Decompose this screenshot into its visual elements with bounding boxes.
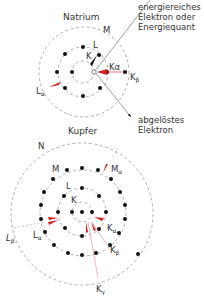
kupfer-shell-n-label: N <box>38 141 44 151</box>
incoming-label: energiereiches Elektron oder Energiequan… <box>138 2 201 32</box>
kupfer-ka-label: Kα <box>107 223 117 236</box>
natrium-shell-m-label: M <box>103 25 110 35</box>
kupfer-lb-label: Lβ <box>6 233 15 246</box>
kupfer-kg-arrow <box>86 222 88 233</box>
natrium-kb-label: Kβ <box>130 72 139 85</box>
natrium-vacancy <box>92 70 96 74</box>
kupfer-kg-line <box>88 222 98 278</box>
kupfer-la-arrow-1 <box>48 217 58 220</box>
natrium-title: Natrium <box>63 12 99 22</box>
ejected-electron-line <box>95 72 131 117</box>
natrium-shell-k-label: K <box>86 51 92 61</box>
kupfer-title: Kupfer <box>68 126 97 136</box>
diagram-canvas <box>0 0 204 304</box>
kupfer-kb-label: Kβ <box>110 245 119 258</box>
natrium-la-arrow <box>49 82 60 87</box>
natrium-ka-arrow <box>97 69 107 75</box>
kupfer-la-arrow-2 <box>48 220 58 225</box>
kupfer-electrons <box>39 166 140 257</box>
kupfer-ma-arrow <box>103 164 108 173</box>
kupfer-ka-arrow <box>94 217 104 221</box>
kupfer-shell-m-label: M <box>52 164 59 174</box>
natrium-ka-label: Kα <box>109 62 120 72</box>
kupfer-la-label: Lα <box>33 230 42 243</box>
kupfer-shell-k-label: K <box>71 195 77 205</box>
kupfer-lb-line <box>14 222 44 228</box>
natrium-shell-l-label: L <box>93 40 98 50</box>
kupfer-kg-label: Kγ <box>96 284 105 297</box>
kupfer-ma-label: Mα <box>111 164 122 177</box>
kupfer-kb-line <box>92 222 107 245</box>
kupfer-atom <box>11 143 153 285</box>
outgoing-label: abgelöstes Elektron <box>138 115 184 135</box>
xray-emission-diagram: Natrium M L K Kα Kβ Lα energiereiches El… <box>0 0 204 304</box>
kupfer-shell-l-label: L <box>66 181 71 191</box>
natrium-la-label: Lα <box>36 86 45 99</box>
